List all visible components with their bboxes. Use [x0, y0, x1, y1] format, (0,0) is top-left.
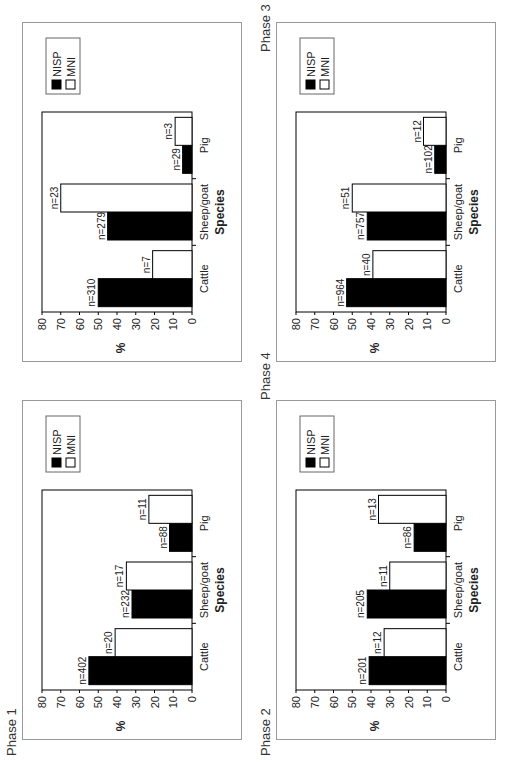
bar-n-label: n=310	[86, 278, 97, 307]
y-tick-label: 10	[421, 318, 433, 330]
chart-phase-1: 01020304050607080%n=402n=20Cattlen=232n=…	[22, 400, 242, 740]
x-axis-label: Species	[213, 189, 227, 235]
bar-n-label: n=11	[378, 565, 389, 587]
bar-nisp-pig	[435, 145, 446, 173]
y-tick-label: 0	[186, 318, 198, 324]
y-tick-label: 0	[440, 318, 452, 324]
y-tick-label: 70	[309, 696, 321, 708]
y-tick-label: 40	[365, 318, 377, 330]
bar-nisp-sheep-goat	[367, 212, 446, 240]
legend-swatch-mni	[66, 80, 75, 89]
y-tick-label: 40	[111, 696, 123, 708]
bar-n-label: n=12	[372, 631, 383, 654]
y-tick-label: 80	[36, 318, 48, 330]
bar-n-label: n=757	[355, 212, 366, 241]
y-tick-label: 70	[309, 318, 321, 330]
y-tick-label: 50	[92, 696, 104, 708]
bar-nisp-cattle	[347, 279, 446, 307]
y-tick-label: 40	[111, 318, 123, 330]
category-label: Cattle	[198, 264, 210, 293]
bar-mni-pig	[175, 117, 192, 145]
y-tick-label: 70	[55, 318, 67, 330]
phase-2-label: Phase 2	[258, 708, 273, 756]
bar-mni-sheep-goat	[61, 184, 192, 212]
bar-n-label: n=201	[357, 656, 368, 685]
phase-1-label: Phase 1	[4, 708, 19, 756]
x-axis-label: Species	[467, 567, 481, 613]
bar-mni-cattle	[153, 251, 192, 279]
bar-n-label: n=29	[171, 148, 182, 171]
legend-label-mni: MNI	[65, 57, 77, 77]
bar-mni-cattle	[384, 629, 446, 657]
bar-nisp-sheep-goat	[132, 590, 192, 618]
bar-n-label: n=7	[141, 256, 152, 273]
bar-mni-cattle	[373, 251, 446, 279]
category-label: Cattle	[198, 642, 210, 671]
y-axis-label: %	[114, 342, 128, 353]
legend-label-mni: MNI	[319, 435, 331, 455]
legend-swatch-mni	[320, 458, 329, 467]
y-tick-label: 10	[421, 696, 433, 708]
legend-swatch-nisp	[306, 458, 315, 467]
y-tick-label: 10	[167, 696, 179, 708]
bar-n-label: n=232	[120, 590, 131, 619]
bar-n-label: n=3	[163, 122, 174, 139]
bar-nisp-cattle	[98, 279, 192, 307]
y-tick-label: 80	[36, 696, 48, 708]
category-label: Pig	[452, 515, 464, 531]
bar-n-label: n=17	[114, 564, 125, 587]
bar-n-label: n=205	[355, 590, 366, 619]
phase-3-label: Phase 3	[258, 4, 273, 52]
bar-mni-pig	[379, 495, 447, 523]
y-tick-label: 50	[346, 318, 358, 330]
y-tick-label: 30	[130, 696, 142, 708]
category-label: Sheep/goat	[452, 562, 464, 618]
y-tick-label: 20	[149, 318, 161, 330]
y-tick-label: 30	[130, 318, 142, 330]
bar-n-label: n=102	[423, 145, 434, 174]
bar-n-label: n=279	[96, 212, 107, 241]
y-tick-label: 60	[328, 696, 340, 708]
bar-mni-sheep-goat	[352, 184, 446, 212]
bar-nisp-sheep-goat	[367, 590, 446, 618]
bar-n-label: n=402	[77, 656, 88, 685]
bar-nisp-pig	[170, 523, 193, 551]
legend-label-mni: MNI	[65, 435, 77, 455]
bar-mni-cattle	[115, 629, 192, 657]
y-tick-label: 30	[384, 696, 396, 708]
bar-mni-sheep-goat	[390, 562, 446, 590]
y-tick-label: 20	[403, 318, 415, 330]
bar-n-label: n=40	[361, 253, 372, 276]
chart-phase-3: 01020304050607080%n=964n=40Cattlen=757n=…	[276, 22, 496, 362]
y-axis-label: %	[368, 720, 382, 731]
y-tick-label: 20	[149, 696, 161, 708]
chart-phase-4: 01020304050607080%n=310n=7Cattlen=279n=2…	[22, 22, 242, 362]
bar-n-label: n=20	[103, 631, 114, 654]
y-tick-label: 30	[384, 318, 396, 330]
x-axis-label: Species	[467, 189, 481, 235]
y-tick-label: 70	[55, 696, 67, 708]
category-label: Sheep/goat	[198, 184, 210, 240]
bar-mni-sheep-goat	[126, 562, 192, 590]
legend-label-nisp: NISP	[51, 51, 63, 77]
y-tick-label: 50	[346, 696, 358, 708]
y-tick-label: 0	[186, 696, 198, 702]
bar-n-label: n=88	[158, 526, 169, 549]
category-label: Cattle	[452, 264, 464, 293]
legend-label-nisp: NISP	[305, 51, 317, 77]
bar-mni-pig	[149, 495, 192, 523]
bar-n-label: n=51	[340, 186, 351, 209]
legend-swatch-nisp	[52, 458, 61, 467]
bar-nisp-sheep-goat	[108, 212, 192, 240]
category-label: Sheep/goat	[198, 562, 210, 618]
y-tick-label: 60	[328, 318, 340, 330]
bar-n-label: n=11	[137, 498, 148, 520]
legend-label-nisp: NISP	[305, 429, 317, 455]
category-label: Cattle	[452, 642, 464, 671]
chart-phase-2: 01020304050607080%n=201n=12Cattlen=205n=…	[276, 400, 496, 740]
bar-nisp-pig	[183, 145, 192, 173]
bar-nisp-pig	[414, 523, 446, 551]
legend-swatch-mni	[66, 458, 75, 467]
legend-swatch-nisp	[306, 80, 315, 89]
category-label: Pig	[198, 515, 210, 531]
